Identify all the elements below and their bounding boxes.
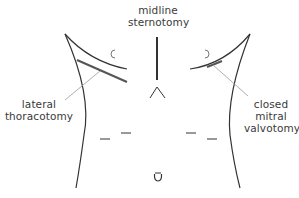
midline-sternotomy-label: midline sternotomy (128, 4, 188, 28)
right-shoulder-outline (190, 34, 250, 69)
closed-label-line-2: mitral (244, 110, 298, 122)
closed-label-line-3: valvotomy (244, 122, 298, 134)
lateral-leader-line (65, 71, 100, 100)
umbilicus-icon (154, 173, 161, 181)
closed-label-line-1: closed (244, 98, 298, 110)
closed-mitral-leader-line (213, 65, 248, 96)
costal-angle-mark (150, 87, 165, 98)
midline-label-line-1: midline (128, 4, 188, 16)
midline-label-line-2: sternotomy (128, 16, 188, 28)
lateral-thoracotomy-label: lateral thoracotomy (4, 98, 74, 122)
left-shoulder-outline (65, 34, 127, 69)
torso-diagram: midline sternotomy lateral thoracotomy c… (0, 0, 299, 198)
lateral-label-line-1: lateral (4, 98, 74, 110)
right-nipple-icon (205, 50, 209, 58)
left-nipple-icon (111, 50, 115, 58)
lateral-label-line-2: thoracotomy (4, 110, 74, 122)
closed-mitral-valvotomy-label: closed mitral valvotomy (244, 98, 298, 134)
lateral-thoracotomy-incision (77, 60, 127, 82)
